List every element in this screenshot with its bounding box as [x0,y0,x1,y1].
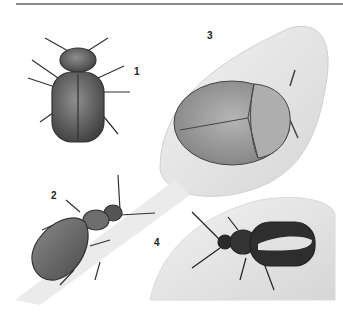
beetle-plate-illustration [0,0,343,322]
figure-label-1: 1 [134,66,140,77]
figure-label-2: 2 [51,190,57,201]
figure-label-3: 3 [207,30,213,41]
figure-label-4: 4 [154,237,160,248]
beetle-1 [28,38,130,142]
